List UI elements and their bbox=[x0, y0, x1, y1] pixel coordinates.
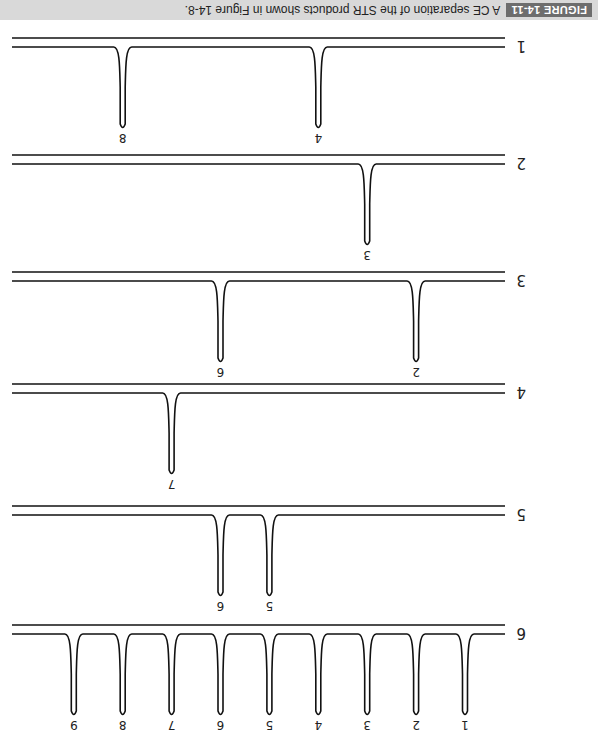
peak-label: 4 bbox=[314, 131, 322, 145]
lane-5: 556 bbox=[12, 505, 526, 613]
peak-label: 6 bbox=[217, 599, 225, 613]
lane-label: 6 bbox=[516, 624, 526, 642]
peak-label: 8 bbox=[119, 718, 127, 732]
peak-label: 3 bbox=[363, 248, 371, 262]
peak-label: 9 bbox=[70, 718, 78, 732]
figure-caption: FIGURE 14-11 A CE separation of the STR … bbox=[0, 0, 598, 20]
peak-label: 6 bbox=[217, 365, 225, 379]
lane-1: 148 bbox=[12, 37, 526, 145]
figure-number-label: FIGURE 14-11 bbox=[506, 3, 592, 17]
lane-trace bbox=[12, 47, 505, 128]
lane-2: 23 bbox=[12, 154, 526, 262]
peak-label: 1 bbox=[461, 718, 469, 732]
figure-caption-text: A CE separation of the STR products show… bbox=[185, 3, 501, 17]
peak-label: 7 bbox=[168, 718, 176, 732]
peak-label: 4 bbox=[314, 718, 322, 732]
electropherogram-figure: 61234567895564732623148 bbox=[0, 20, 598, 744]
peak-label: 5 bbox=[266, 718, 274, 732]
peak-label: 3 bbox=[363, 718, 371, 732]
lane-trace bbox=[12, 515, 505, 596]
peak-label: 2 bbox=[412, 718, 420, 732]
lane-label: 1 bbox=[516, 37, 526, 55]
lane-trace bbox=[12, 634, 505, 715]
lane-trace bbox=[12, 393, 505, 474]
lane-label: 3 bbox=[516, 271, 526, 289]
figure-page: 61234567895564732623148 FIGURE 14-11 A C… bbox=[0, 0, 598, 744]
peak-label: 7 bbox=[168, 477, 176, 491]
lane-4: 47 bbox=[12, 383, 526, 491]
peak-label: 2 bbox=[412, 365, 420, 379]
lane-label: 5 bbox=[516, 505, 526, 523]
peak-label: 6 bbox=[217, 718, 225, 732]
lane-trace bbox=[12, 164, 505, 245]
lane-label: 4 bbox=[516, 383, 526, 401]
peak-label: 8 bbox=[119, 131, 127, 145]
lane-6: 6123456789 bbox=[12, 624, 526, 732]
lane-label: 2 bbox=[516, 154, 526, 172]
lane-trace bbox=[12, 281, 505, 362]
peak-label: 5 bbox=[266, 599, 274, 613]
lane-3: 326 bbox=[12, 271, 526, 379]
